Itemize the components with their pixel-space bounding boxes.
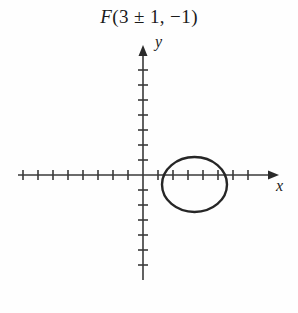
- x-axis-label: x: [276, 177, 283, 195]
- y-axis-label: y: [155, 33, 162, 51]
- coordinate-plane: [0, 0, 298, 313]
- graph-figure: F(3 ± 1, −1): [0, 0, 298, 313]
- y-axis-arrowhead-icon: [139, 45, 148, 56]
- conic-ellipse-curve: [162, 157, 227, 212]
